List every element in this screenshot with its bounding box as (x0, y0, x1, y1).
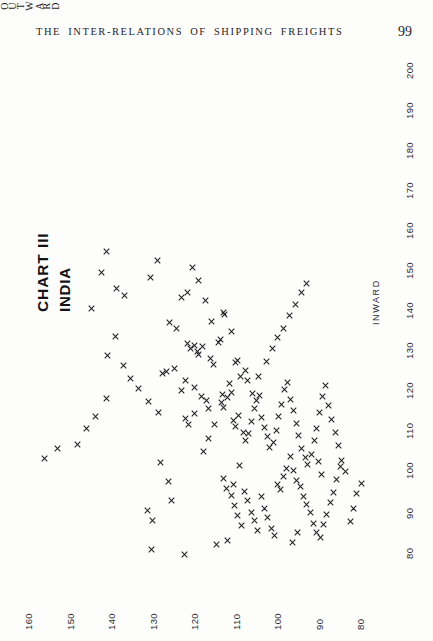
data-point (173, 325, 180, 332)
data-point (178, 294, 185, 301)
data-point (337, 463, 344, 470)
header-title: THE INTER-RELATIONS OF SHIPPING FREIGHTS (36, 26, 343, 37)
data-point (284, 379, 291, 386)
data-point (189, 264, 196, 271)
data-point (54, 445, 61, 452)
data-point (168, 497, 175, 504)
data-point (273, 427, 280, 434)
inward-tick-110: 110 (404, 423, 415, 439)
data-point (88, 305, 95, 312)
data-point (182, 415, 189, 422)
data-point (300, 493, 307, 500)
data-point (159, 370, 166, 377)
data-point (220, 404, 227, 411)
data-point (74, 441, 81, 448)
data-point (298, 445, 305, 452)
data-point (205, 405, 212, 412)
data-point (249, 390, 256, 397)
data-point (278, 401, 285, 408)
data-point (332, 429, 339, 436)
data-point (228, 328, 235, 335)
outward-tick-90: 90 (314, 619, 325, 630)
data-point (274, 481, 281, 488)
inward-tick-130: 130 (404, 342, 415, 359)
outward-tick-110: 110 (231, 614, 242, 630)
data-point (253, 397, 260, 404)
data-point (316, 409, 323, 416)
data-point (319, 393, 326, 400)
inward-tick-100: 100 (404, 462, 415, 479)
data-point (221, 311, 228, 318)
data-point (104, 352, 111, 359)
data-point (165, 478, 172, 485)
data-point (283, 465, 290, 472)
data-point (317, 534, 324, 541)
data-point (286, 312, 293, 319)
data-point (290, 467, 297, 474)
data-point (208, 318, 215, 325)
data-point (325, 402, 332, 409)
data-point (205, 435, 212, 442)
data-point (92, 413, 99, 420)
data-point (330, 489, 337, 496)
data-point (270, 439, 277, 446)
page-number: 99 (398, 24, 412, 40)
data-point (292, 301, 299, 308)
data-point (313, 529, 320, 536)
data-point (195, 277, 202, 284)
data-point (287, 453, 294, 460)
data-point (303, 280, 310, 287)
data-point (184, 289, 191, 296)
data-point (230, 417, 237, 424)
data-point (277, 486, 284, 493)
data-point (251, 405, 258, 412)
chart-title-block: CHART III INDIA (12, 200, 72, 320)
data-point (135, 385, 142, 392)
data-point (121, 292, 128, 299)
data-point (275, 413, 282, 420)
data-point (335, 442, 342, 449)
data-point (145, 398, 152, 405)
data-point (266, 444, 273, 451)
page-canvas: THE INTER-RELATIONS OF SHIPPING FREIGHTS… (0, 0, 433, 641)
data-point (248, 418, 255, 425)
data-point (187, 345, 194, 352)
data-point (274, 334, 281, 341)
data-point (220, 309, 227, 316)
data-point (149, 517, 156, 524)
data-point (289, 539, 296, 546)
data-point (207, 355, 214, 362)
inward-tick-140: 140 (404, 302, 415, 319)
data-point (302, 454, 309, 461)
data-point (353, 490, 360, 497)
data-point (244, 497, 251, 504)
data-point (258, 493, 265, 500)
inward-tick-200: 200 (404, 62, 415, 79)
data-point (41, 455, 48, 462)
data-point (223, 485, 230, 492)
data-point (338, 457, 345, 464)
data-point (210, 361, 217, 368)
data-point (163, 368, 170, 375)
data-point (280, 473, 287, 480)
inward-tick-180: 180 (404, 142, 415, 159)
data-point (184, 340, 191, 347)
data-point (83, 425, 90, 432)
data-point (244, 377, 251, 384)
data-point (120, 362, 127, 369)
data-point (182, 377, 189, 384)
data-point (166, 319, 173, 326)
data-point (318, 471, 325, 478)
data-point (245, 430, 252, 437)
data-point (171, 365, 178, 372)
inward-tick-120: 120 (404, 382, 415, 399)
data-point (304, 461, 311, 468)
data-point (232, 359, 239, 366)
scatter-plot (0, 0, 433, 641)
data-point (271, 532, 278, 539)
data-point (290, 407, 297, 414)
data-point (220, 475, 227, 482)
data-point (178, 387, 185, 394)
data-point (281, 386, 288, 393)
data-point (224, 537, 231, 544)
